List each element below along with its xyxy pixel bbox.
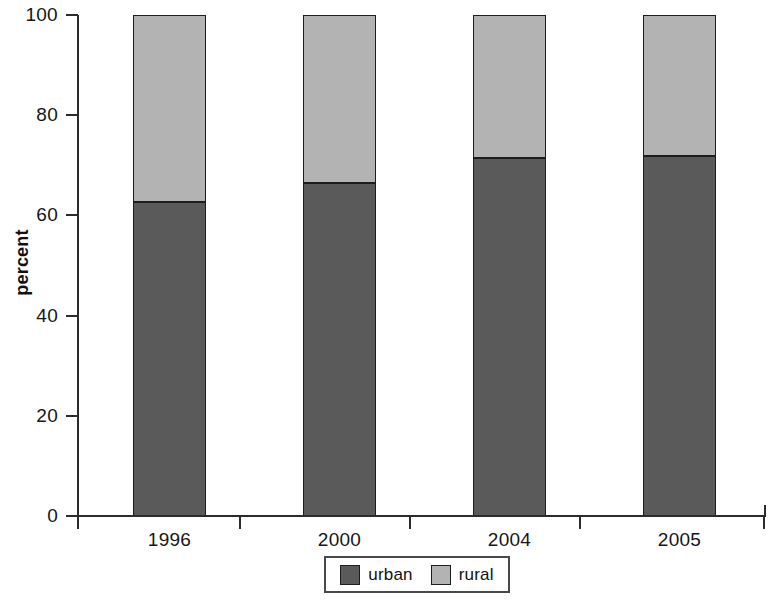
y-tick-label-20: 20	[2, 406, 58, 425]
bar-segment-urban-2005	[643, 156, 716, 516]
x-axis-line	[66, 515, 766, 517]
x-tick-3	[579, 516, 581, 529]
y-tick-label-100: 100	[2, 5, 58, 24]
y-axis-title: percent	[12, 218, 33, 308]
bar-segment-rural-1996	[133, 15, 206, 202]
y-tick-label-0: 0	[2, 506, 58, 525]
bar-2004	[473, 15, 546, 516]
bar-1996	[133, 15, 206, 516]
bar-segment-rural-2004	[473, 15, 546, 158]
x-tick-0	[77, 516, 79, 529]
y-tick-60	[66, 214, 78, 216]
x-tick-label-2005: 2005	[625, 529, 735, 551]
y-tick-80	[66, 114, 78, 116]
chart-legend: urban rural	[324, 556, 510, 593]
x-tick-label-1996: 1996	[115, 529, 225, 551]
legend-swatch-urban	[340, 565, 360, 585]
y-tick-label-40: 40	[2, 306, 58, 325]
stacked-bar-chart: 020406080100 percent 1996200020042005 ur…	[0, 0, 775, 607]
bar-2005	[643, 15, 716, 516]
y-tick-100	[66, 14, 78, 16]
legend-item-urban: urban	[340, 565, 412, 585]
legend-swatch-rural	[431, 565, 451, 585]
legend-label-urban: urban	[368, 566, 412, 583]
y-tick-40	[66, 315, 78, 317]
y-tick-20	[66, 415, 78, 417]
y-tick-label-80: 80	[2, 105, 58, 124]
x-tick-label-2000: 2000	[285, 529, 395, 551]
x-tick-2	[409, 516, 411, 529]
bar-2000	[303, 15, 376, 516]
legend-label-rural: rural	[459, 566, 494, 583]
x-tick-4	[763, 516, 765, 529]
bar-segment-rural-2000	[303, 15, 376, 183]
bar-segment-urban-1996	[133, 202, 206, 516]
x-tick-label-2004: 2004	[455, 529, 565, 551]
legend-item-rural: rural	[431, 565, 494, 585]
bar-segment-urban-2004	[473, 158, 546, 516]
bar-segment-rural-2005	[643, 15, 716, 156]
bar-segment-urban-2000	[303, 183, 376, 516]
x-tick-1	[239, 516, 241, 529]
y-axis-line	[77, 15, 79, 516]
